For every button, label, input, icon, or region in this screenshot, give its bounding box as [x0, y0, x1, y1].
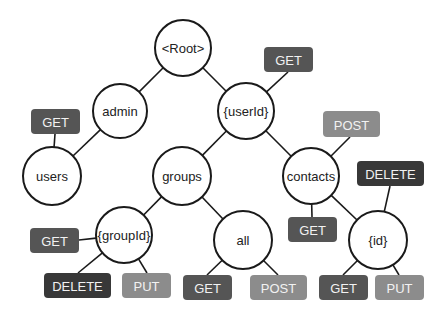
- method-badge-label: GET: [41, 234, 68, 249]
- method-link-users-get: [54, 134, 55, 147]
- node-label: groups: [162, 169, 202, 184]
- node-label: <Root>: [162, 41, 205, 56]
- edge-groups-all: [202, 197, 223, 219]
- edge-contacts-idNode: [331, 195, 357, 220]
- method-badge-get-all: GET: [183, 275, 232, 300]
- method-badge-label: GET: [194, 281, 221, 296]
- method-badge-label: GET: [275, 53, 302, 68]
- node-label: {id}: [369, 233, 388, 248]
- method-link-contacts-post: [331, 137, 350, 156]
- method-link-groupId-delete: [78, 253, 102, 273]
- edge-groups-groupId: [144, 197, 162, 215]
- method-badge-get-idNode: GET: [319, 275, 368, 300]
- method-badge-get-users: GET: [31, 109, 80, 134]
- method-badge-post-all: POST: [250, 275, 307, 300]
- method-link-groupId-put: [138, 259, 147, 273]
- method-badge-put-idNode: PUT: [375, 275, 424, 300]
- method-link-idNode-put: [393, 265, 399, 275]
- method-badge-label: DELETE: [52, 279, 103, 294]
- node-label: users: [36, 169, 68, 184]
- edge-userId-contacts: [266, 131, 291, 156]
- method-badge-label: GET: [299, 223, 326, 238]
- method-link-all-get: [207, 260, 222, 275]
- resource-node-root: <Root>: [155, 20, 211, 76]
- node-label: {userId}: [224, 104, 269, 119]
- edge-userId-groups: [202, 131, 226, 155]
- method-badge-label: PUT: [134, 279, 160, 294]
- resource-tree-diagram: <Root>admin{userId}usersgroupscontacts{g…: [0, 0, 447, 315]
- resource-node-users: users: [23, 147, 81, 205]
- method-badge-label: POST: [261, 281, 296, 296]
- method-link-userId-get: [267, 72, 288, 92]
- method-badge-label: POST: [334, 118, 369, 133]
- method-badge-label: GET: [330, 281, 357, 296]
- node-label: admin: [102, 104, 137, 119]
- method-link-idNode-delete: [384, 186, 390, 212]
- resource-node-groupId: {groupId}: [96, 207, 152, 263]
- method-badge-delete-groupId: DELETE: [44, 273, 111, 298]
- method-badge-label: GET: [42, 115, 69, 130]
- method-link-idNode-get: [343, 261, 357, 275]
- method-badge-get-userId: GET: [264, 47, 313, 72]
- method-badge-post-contacts: POST: [323, 111, 380, 137]
- node-label: {groupId}: [98, 228, 151, 243]
- method-badge-get-groupId: GET: [30, 228, 79, 253]
- edge-root-admin: [139, 68, 163, 92]
- method-badge-label: DELETE: [365, 167, 416, 182]
- resource-node-userId: {userId}: [218, 83, 274, 139]
- method-link-all-post: [264, 261, 278, 275]
- resource-node-all: all: [214, 211, 272, 269]
- method-badge-put-groupId: PUT: [122, 273, 171, 298]
- node-label: all: [236, 233, 249, 248]
- method-badge-label: PUT: [387, 281, 413, 296]
- resource-node-groups: groups: [153, 147, 211, 205]
- resource-node-idNode: {id}: [349, 211, 407, 269]
- method-link-groupId-get: [79, 238, 96, 240]
- nodes-layer: <Root>admin{userId}usersgroupscontacts{g…: [23, 20, 407, 269]
- edge-root-userId: [203, 68, 226, 91]
- method-badge-get-contacts: GET: [288, 217, 337, 242]
- resource-node-contacts: contacts: [283, 148, 339, 204]
- resource-node-admin: admin: [93, 84, 147, 138]
- node-label: contacts: [287, 169, 336, 184]
- method-badge-delete-idNode: DELETE: [357, 161, 424, 186]
